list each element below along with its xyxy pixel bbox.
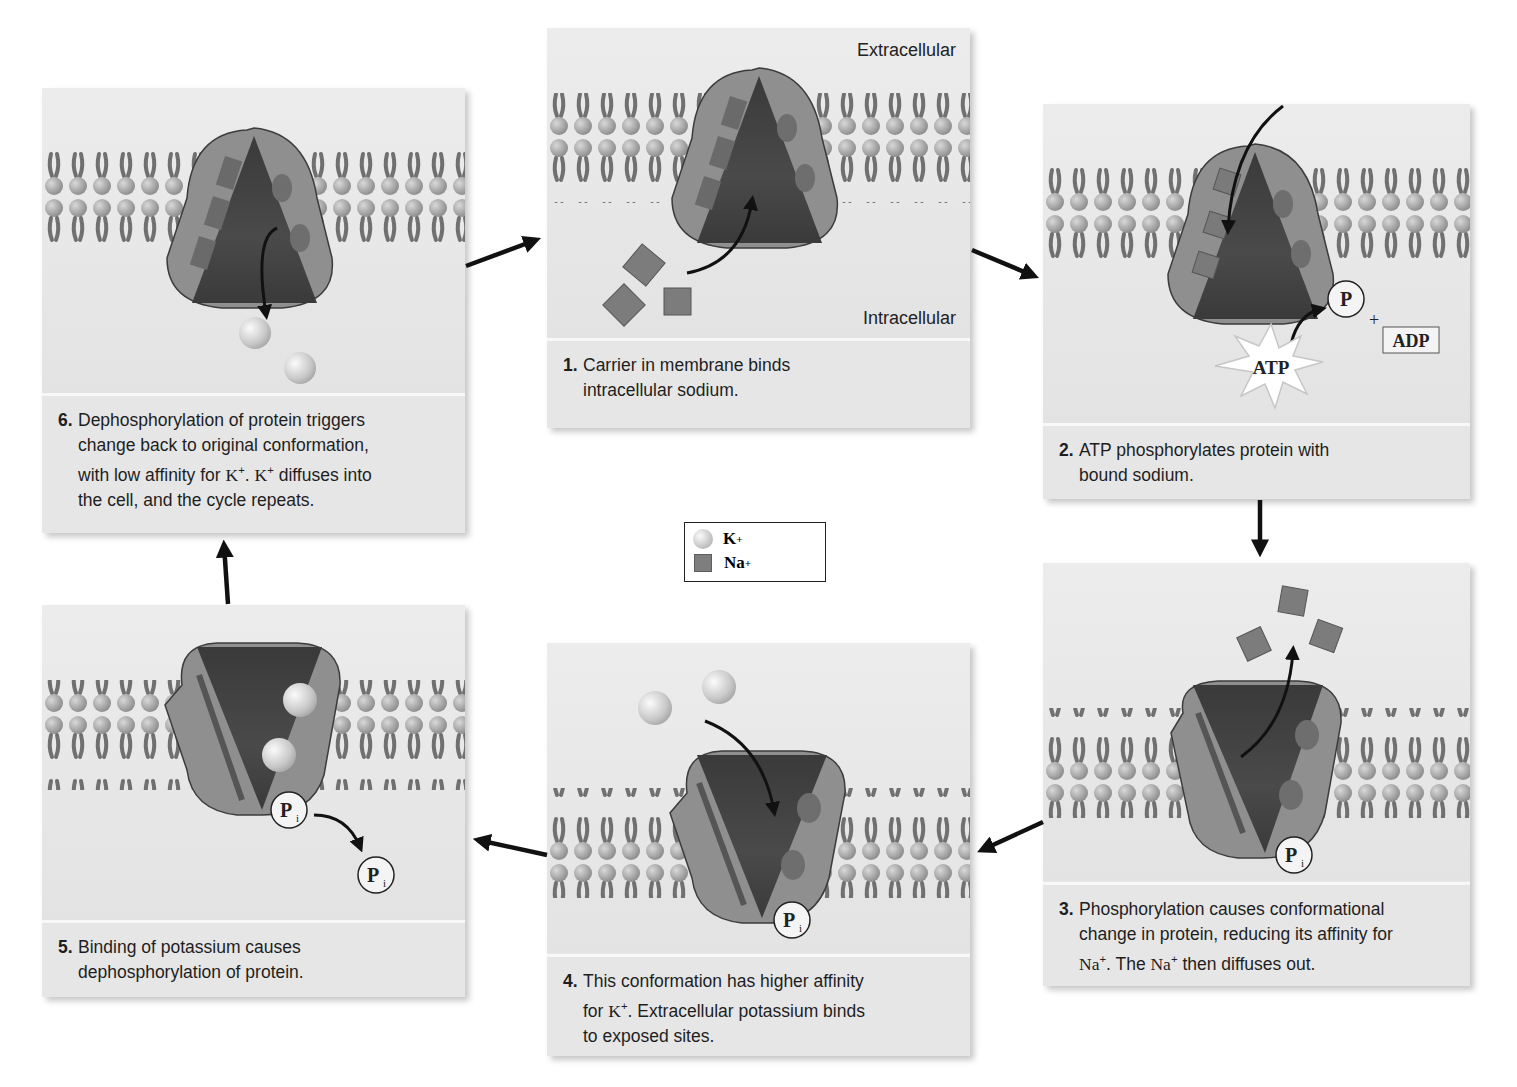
- arrow-3-to-4: [982, 822, 1043, 850]
- arrow-6-to-1: [466, 240, 536, 266]
- arrow-4-to-5: [478, 840, 547, 855]
- diagram-stage: 6.Dephosphorylation of protein triggersc…: [0, 0, 1517, 1087]
- legend: K+ Na+: [684, 522, 826, 582]
- arrow-5-to-6: [224, 545, 228, 604]
- potassium-ion-icon: [693, 529, 713, 549]
- arrow-1-to-2: [972, 250, 1034, 276]
- sodium-ion-icon: [694, 554, 712, 572]
- legend-item-potassium: K+: [693, 527, 817, 551]
- legend-item-sodium: Na+: [693, 551, 817, 575]
